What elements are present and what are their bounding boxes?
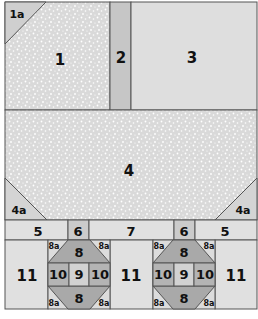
label-1: 1 [55,51,65,69]
label-8a: 8a [154,242,165,251]
label-4a-left: 4a [11,204,26,217]
label-8: 8 [74,291,83,306]
label-8: 8 [179,291,188,306]
label-9: 9 [74,267,83,282]
label-11-mid: 11 [121,267,142,285]
label-2: 2 [116,49,126,67]
label-11-left: 11 [17,267,38,285]
quilt-block-diagram: 1a 1 2 3 4 4a 4a 5 6 7 6 5 11 11 11 8 8 … [0,0,258,319]
label-8a: 8a [204,299,215,308]
label-8a: 8a [99,242,110,251]
label-8a: 8a [154,299,165,308]
label-8a: 8a [204,242,215,251]
label-8a: 8a [99,299,110,308]
label-10: 10 [196,267,214,282]
label-8: 8 [179,245,188,260]
label-7: 7 [126,224,135,239]
label-4: 4 [124,162,134,180]
label-8: 8 [74,245,83,260]
label-6-left: 6 [73,224,82,239]
label-5-right: 5 [220,224,229,239]
label-5-left: 5 [33,224,42,239]
label-6-right: 6 [179,224,188,239]
label-1a: 1a [9,8,24,21]
label-4a-right: 4a [235,204,250,217]
label-10: 10 [91,267,109,282]
label-8a: 8a [49,242,60,251]
label-11-right: 11 [226,267,247,285]
label-10: 10 [49,267,67,282]
label-3: 3 [187,49,197,67]
label-10: 10 [154,267,172,282]
label-8a: 8a [49,299,60,308]
label-9: 9 [179,267,188,282]
